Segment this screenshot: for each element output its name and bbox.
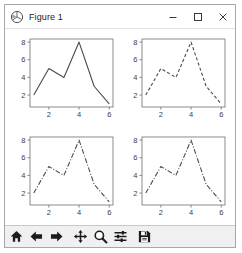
y-tick-label: 2: [133, 189, 137, 198]
x-tick-label: 4: [77, 208, 81, 217]
x-tick-label: 2: [47, 208, 51, 217]
x-tick-label: 6: [107, 110, 111, 119]
subplot-bottom-left: 2462468: [21, 136, 113, 217]
subplot-grid: 2462468246246824624682462468: [5, 29, 235, 225]
x-tick-label: 4: [189, 110, 193, 119]
figure-window: Figure 1 2462468246246824624682462468: [4, 4, 236, 248]
y-tick-label: 8: [21, 38, 25, 47]
save-button[interactable]: [134, 227, 154, 247]
window-title: Figure 1: [29, 12, 63, 22]
close-button[interactable]: [210, 5, 235, 28]
x-tick-label: 2: [159, 110, 163, 119]
y-tick-label: 6: [133, 153, 137, 162]
subplot-bottom-right: 2462468: [133, 136, 225, 217]
x-tick-label: 6: [219, 208, 223, 217]
title-bar: Figure 1: [5, 5, 235, 29]
y-tick-label: 4: [21, 171, 25, 180]
x-tick-label: 4: [77, 110, 81, 119]
subplot-top-left: 2462468: [21, 38, 113, 119]
subplot-top-right: 2462468: [133, 38, 225, 119]
pan-button[interactable]: [70, 227, 90, 247]
y-tick-label: 8: [133, 38, 137, 47]
x-tick-label: 6: [107, 208, 111, 217]
minimize-button[interactable]: [160, 5, 185, 28]
x-tick-label: 4: [189, 208, 193, 217]
navigation-toolbar: [5, 225, 235, 247]
zoom-button[interactable]: [90, 227, 110, 247]
forward-button[interactable]: [46, 227, 66, 247]
y-tick-label: 2: [21, 189, 25, 198]
back-button[interactable]: [26, 227, 46, 247]
window-controls: [160, 5, 235, 28]
y-tick-label: 6: [133, 55, 137, 64]
y-tick-label: 4: [133, 73, 137, 82]
y-tick-label: 6: [21, 153, 25, 162]
figure-canvas[interactable]: 2462468246246824624682462468: [5, 29, 235, 225]
x-tick-label: 2: [47, 110, 51, 119]
y-tick-label: 6: [21, 55, 25, 64]
matplotlib-logo-icon: [10, 10, 24, 24]
y-tick-label: 2: [133, 91, 137, 100]
x-tick-label: 6: [219, 110, 223, 119]
maximize-button[interactable]: [185, 5, 210, 28]
y-tick-label: 8: [133, 136, 137, 145]
configure-subplots-button[interactable]: [110, 227, 130, 247]
x-tick-label: 2: [159, 208, 163, 217]
y-tick-label: 4: [133, 171, 137, 180]
y-tick-label: 8: [21, 136, 25, 145]
y-tick-label: 4: [21, 73, 25, 82]
y-tick-label: 2: [21, 91, 25, 100]
home-button[interactable]: [6, 227, 26, 247]
